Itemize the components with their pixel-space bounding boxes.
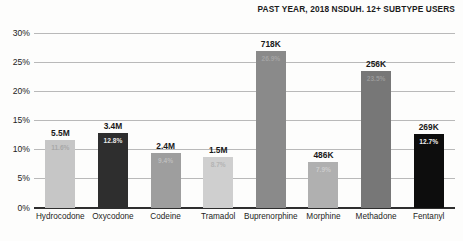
bar[interactable]: 12.8% xyxy=(98,133,128,208)
bar-group[interactable]: 23.5%256K xyxy=(361,33,391,208)
x-axis-category-label: Morphine xyxy=(306,212,340,221)
bar-count-label: 256K xyxy=(366,59,386,69)
x-axis-category-label: Oxycodone xyxy=(92,212,133,221)
y-axis-tick-label: 0% xyxy=(0,203,30,213)
bar-group[interactable]: 7.9%486K xyxy=(308,33,338,208)
bar-percent-label: 23.5% xyxy=(367,75,386,82)
bar-count-label: 486K xyxy=(313,150,333,160)
x-axis-category-label: Tramadol xyxy=(201,212,235,221)
x-axis-category-label: Codeine xyxy=(150,212,181,221)
bar-count-label: 1.5M xyxy=(209,145,228,155)
bar-percent-label: 12.8% xyxy=(104,137,123,144)
bar-percent-label: 9.4% xyxy=(158,157,173,164)
bar[interactable]: 9.4% xyxy=(151,153,181,208)
bar-series: 11.6%5.5M12.8%3.4M9.4%2.4M8.7%1.5M26.9%7… xyxy=(34,33,455,208)
bar-count-label: 718K xyxy=(261,39,281,49)
x-axis-category-label: Buprenorphine xyxy=(244,212,298,221)
bar-group[interactable]: 12.7%269K xyxy=(414,33,444,208)
bar[interactable]: 8.7% xyxy=(203,157,233,208)
bar-percent-label: 26.9% xyxy=(261,55,280,62)
bar-group[interactable]: 8.7%1.5M xyxy=(203,33,233,208)
bar-group[interactable]: 12.8%3.4M xyxy=(98,33,128,208)
bar-percent-label: 8.7% xyxy=(211,161,226,168)
bar-group[interactable]: 9.4%2.4M xyxy=(151,33,181,208)
bar[interactable]: 7.9% xyxy=(308,162,338,208)
bar-count-label: 5.5M xyxy=(51,128,70,138)
bar-chart: PAST YEAR, 2018 NSDUH. 12+ SUBTYPE USERS… xyxy=(0,0,463,241)
bar[interactable]: 12.7% xyxy=(414,134,444,208)
bar-group[interactable]: 26.9%718K xyxy=(256,33,286,208)
y-axis-tick-label: 5% xyxy=(0,173,30,183)
bar[interactable]: 11.6% xyxy=(45,140,75,208)
y-axis-tick-label: 10% xyxy=(0,144,30,154)
y-axis-tick-label: 15% xyxy=(0,115,30,125)
x-axis-category-label: Hydrocodone xyxy=(36,212,85,221)
bar-count-label: 3.4M xyxy=(104,121,123,131)
y-axis-tick-label: 20% xyxy=(0,86,30,96)
chart-title: PAST YEAR, 2018 NSDUH. 12+ SUBTYPE USERS xyxy=(258,4,455,14)
bar-group[interactable]: 11.6%5.5M xyxy=(45,33,75,208)
bar-percent-label: 7.9% xyxy=(316,166,331,173)
bar-count-label: 2.4M xyxy=(156,141,175,151)
y-axis-tick-label: 25% xyxy=(0,57,30,67)
bar-percent-label: 12.7% xyxy=(419,138,438,145)
bar[interactable]: 23.5% xyxy=(361,71,391,208)
y-axis-tick-label: 30% xyxy=(0,28,30,38)
bar-percent-label: 11.6% xyxy=(51,144,69,151)
x-axis-category-label: Methadone xyxy=(356,212,397,221)
bar[interactable]: 26.9% xyxy=(256,51,286,208)
bar-count-label: 269K xyxy=(419,122,439,132)
x-axis-category-label: Fentanyl xyxy=(413,212,444,221)
